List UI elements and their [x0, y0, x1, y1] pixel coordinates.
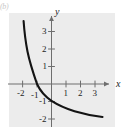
y-tick-label-neg2: -2: [39, 115, 47, 124]
figure-container: (b) -2 -1 1 2 3 3 2 1 -1 -2 x y: [0, 0, 128, 139]
y-tick-label-1: 1: [43, 62, 48, 71]
y-axis-arrowhead: [49, 16, 54, 21]
x-axis-arrowhead: [104, 82, 109, 87]
y-tick-label-neg1: -1: [39, 97, 47, 106]
y-tick-label-3: 3: [42, 27, 47, 36]
x-tick-label-3: 3: [93, 89, 98, 98]
x-axis-label: x: [116, 79, 120, 89]
x-tick-label-2: 2: [78, 89, 83, 98]
x-tick-label-neg1: -1: [31, 91, 39, 100]
x-tick-label-neg2: -2: [17, 89, 25, 98]
y-tick-label-2: 2: [42, 45, 47, 54]
y-axis-label: y: [55, 7, 59, 17]
x-tick-label-1: 1: [64, 89, 69, 98]
coordinate-plane-graph: [0, 0, 128, 139]
function-curve: [24, 21, 103, 117]
